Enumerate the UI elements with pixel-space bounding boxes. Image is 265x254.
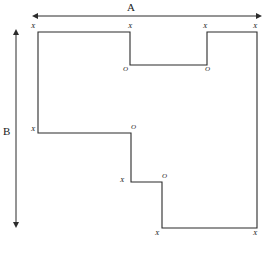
polygon-outline — [38, 32, 257, 228]
vertex-label-x-bottom-right: X — [253, 230, 257, 237]
vertex-label-x-bottom-left: X — [155, 230, 159, 237]
vertex-label-x-lower-step-left: X — [120, 177, 124, 184]
figure-canvas: A B XXOOXXXOXOXX — [0, 0, 265, 254]
dimension-label-b: B — [3, 126, 10, 137]
vertex-label-o-middle-step: O — [131, 124, 136, 131]
vertex-label-o-notch-left-bottom: O — [123, 66, 128, 73]
vertex-label-x-notch-left-top: X — [128, 23, 132, 30]
vertex-label-o-lower-step-right: O — [162, 173, 167, 180]
vertex-label-o-notch-right-bottom: O — [205, 66, 210, 73]
vertex-label-x-top-right: X — [253, 23, 257, 30]
dimension-label-a: A — [127, 2, 135, 13]
vertex-label-x-notch-right-top: X — [203, 23, 207, 30]
vertex-label-x-left-step: X — [31, 126, 35, 133]
vertex-label-x-top-left: X — [31, 23, 35, 30]
